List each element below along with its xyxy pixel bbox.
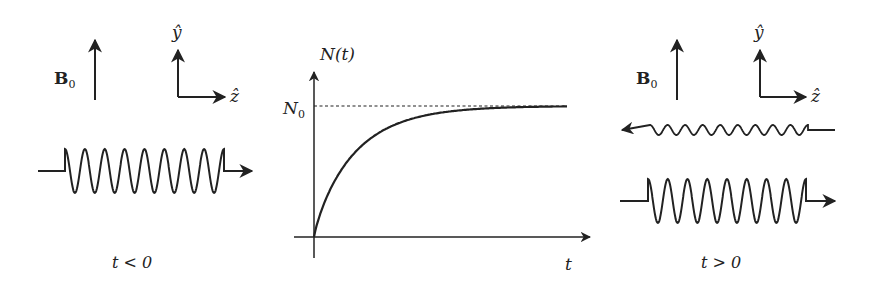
n0-label: N0 <box>283 100 305 117</box>
time-caption: t > 0 <box>701 255 741 271</box>
incident-wave-icon <box>38 149 252 193</box>
center-panel <box>294 72 590 258</box>
b0-label: B0 <box>636 70 657 87</box>
x-axis-label: t <box>565 256 572 273</box>
y-hat-label: ŷ <box>754 24 764 41</box>
y-axis-label: N(t) <box>320 46 355 63</box>
z-hat-label: ẑ <box>230 88 239 105</box>
figure-canvas <box>0 0 878 286</box>
right-panel <box>620 40 835 223</box>
y-hat-label: ŷ <box>172 24 182 41</box>
growth-curve <box>314 106 567 237</box>
b0-label: B0 <box>54 70 75 87</box>
reflected-wave-icon <box>622 125 835 135</box>
z-hat-label: ẑ <box>811 88 820 105</box>
time-caption: t < 0 <box>112 255 152 271</box>
axes-icon <box>760 50 806 97</box>
transmitted-wave-icon <box>620 179 835 223</box>
left-panel <box>38 40 252 193</box>
axes-icon <box>178 50 225 97</box>
